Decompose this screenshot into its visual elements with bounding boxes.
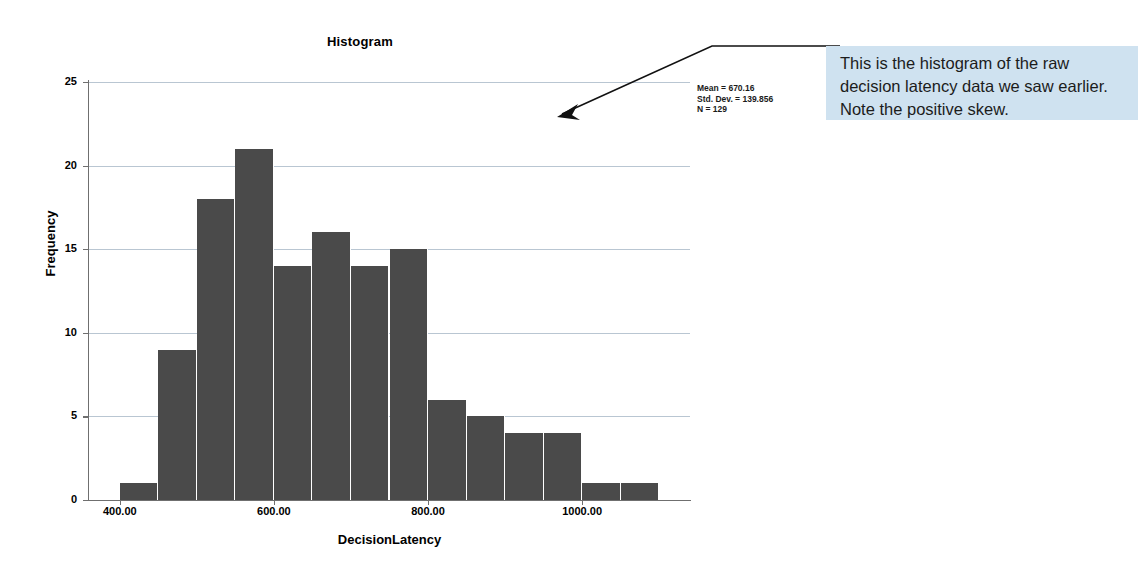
histogram-bar	[158, 350, 197, 500]
y-tick-label: 25	[37, 75, 77, 87]
x-tick-mark	[274, 500, 275, 505]
x-tick-mark	[428, 500, 429, 505]
histogram-bar	[582, 483, 621, 500]
x-tick-label: 800.00	[411, 505, 445, 517]
histogram-bar	[197, 199, 236, 500]
y-tick-label: 0	[37, 493, 77, 505]
histogram-bar	[505, 433, 544, 500]
histogram-bar	[544, 433, 583, 500]
y-tick-label: 10	[37, 326, 77, 338]
x-tick-mark	[120, 500, 121, 505]
x-tick-mark	[582, 500, 583, 505]
y-tick-label: 5	[37, 409, 77, 421]
y-axis-title: Frequency	[43, 211, 58, 277]
x-tick-label: 600.00	[257, 505, 291, 517]
histogram-bar	[428, 400, 467, 500]
histogram-bar	[467, 416, 506, 500]
histogram-bar	[390, 249, 429, 500]
y-tick-mark	[83, 500, 89, 501]
histogram-bar	[274, 266, 313, 500]
y-tick-label: 20	[37, 159, 77, 171]
histogram-bar	[235, 149, 274, 500]
histogram-bar	[351, 266, 390, 500]
x-axis-line	[88, 500, 691, 501]
annotation-callout: This is the histogram of the raw decisio…	[826, 46, 1138, 120]
histogram-bar	[120, 483, 159, 500]
x-tick-label: 400.00	[103, 505, 137, 517]
histogram-bar	[312, 232, 351, 500]
callout-leader-arrow	[540, 30, 860, 130]
x-tick-label: 1000.00	[562, 505, 602, 517]
histogram-bars	[89, 82, 690, 500]
annotation-text: This is the histogram of the raw decisio…	[840, 54, 1108, 118]
x-axis-title: DecisionLatency	[89, 532, 690, 547]
histogram-bar	[621, 483, 660, 500]
